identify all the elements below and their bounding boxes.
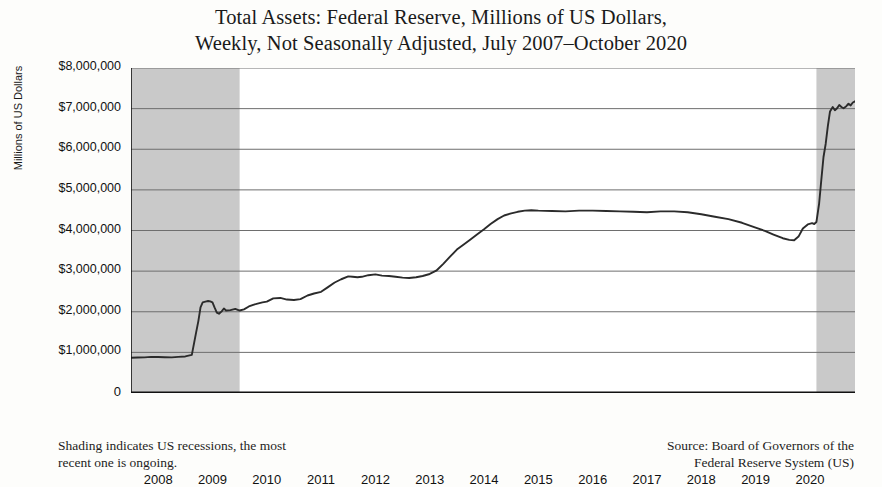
chart-title-line-2: Weekly, Not Seasonally Adjusted, July 20… [0,30,882,56]
source-note: Source: Board of Governors of the Federa… [524,437,854,471]
x-tick-label-7: 2015 [508,472,568,487]
x-tick-label-4: 2012 [345,472,405,487]
x-tick-label-0: 2008 [128,472,188,487]
source-note-line-2: Federal Reserve System (US) [524,454,854,471]
x-tick-label-11: 2019 [726,472,786,487]
x-tick-label-6: 2014 [454,472,514,487]
x-tick-label-9: 2017 [617,472,677,487]
plot-area: 0$1,000,000$2,000,000$3,000,000$4,000,00… [131,68,855,393]
recession-note-line-1: Shading indicates US recessions, the mos… [58,437,388,454]
y-tick-label-7: $7,000,000 [1,100,121,114]
recession-shading-note: Shading indicates US recessions, the mos… [58,437,388,471]
y-tick-label-5: $5,000,000 [1,181,121,195]
y-tick-label-4: $4,000,000 [1,222,121,236]
x-tick-label-2: 2010 [237,472,297,487]
x-tick-label-3: 2011 [291,472,351,487]
x-tick-label-8: 2016 [563,472,623,487]
chart-canvas [131,68,855,393]
x-tick-label-1: 2009 [182,472,242,487]
source-note-line-1: Source: Board of Governors of the [524,437,854,454]
y-tick-label-8: $8,000,000 [1,59,121,73]
recession-note-line-2: recent one is ongoing. [58,454,388,471]
x-tick-label-10: 2018 [671,472,731,487]
y-tick-label-0: 0 [1,384,121,399]
y-tick-label-3: $3,000,000 [1,262,121,276]
x-tick-label-12: 2020 [780,472,840,487]
x-tick-label-5: 2013 [400,472,460,487]
chart-title: Total Assets: Federal Reserve, Millions … [0,4,882,56]
y-tick-label-2: $2,000,000 [1,303,121,317]
y-tick-label-6: $6,000,000 [1,140,121,154]
chart-title-line-1: Total Assets: Federal Reserve, Millions … [0,4,882,30]
y-tick-label-1: $1,000,000 [1,343,121,357]
